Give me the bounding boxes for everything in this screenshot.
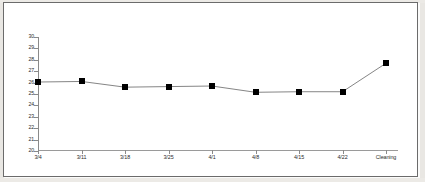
data-point (340, 89, 346, 95)
x-tick-label: 4/15 (294, 155, 304, 160)
y-tick-label: 23 (28, 114, 34, 119)
chart-figure: 3029282726252423222120 3/43/113/183/254/… (0, 0, 425, 182)
y-tick-label: 24 (28, 103, 34, 108)
x-tick-label: 4/1 (208, 155, 215, 160)
data-point (35, 79, 41, 85)
y-tick-label: 25 (28, 91, 34, 96)
data-point (253, 89, 259, 95)
x-tick-label: 3/18 (120, 155, 130, 160)
x-tick-label: 3/4 (34, 155, 41, 160)
y-tick-label: 27 (28, 69, 34, 74)
data-point (296, 89, 302, 95)
data-point (79, 78, 85, 84)
x-tick-label: 3/25 (163, 155, 173, 160)
y-tick-label: 28 (28, 57, 34, 62)
y-tick-label: 29 (28, 46, 34, 51)
y-tick-label: 20 (28, 148, 34, 153)
plot-area: 3029282726252423222120 3/43/113/183/254/… (38, 37, 398, 151)
x-tick-label: 3/11 (77, 155, 87, 160)
y-tick-label: 22 (28, 126, 34, 131)
data-point (122, 84, 128, 90)
y-tick-label: 30 (28, 34, 34, 39)
x-tick-label: 4/22 (337, 155, 347, 160)
scan-edge-bottom (0, 178, 425, 182)
x-tick-label: 4/8 (252, 155, 259, 160)
scan-edge-right (420, 0, 425, 182)
y-tick-label: 26 (28, 80, 34, 85)
data-point (209, 83, 215, 89)
data-point (166, 84, 172, 90)
data-point (383, 60, 389, 66)
x-tick-label: Cleaning (376, 155, 396, 160)
y-tick-label: 21 (28, 137, 34, 142)
